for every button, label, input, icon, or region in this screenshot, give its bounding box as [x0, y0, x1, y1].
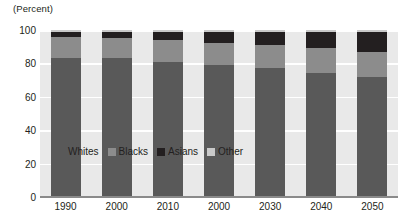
y-tick-60: 60	[2, 91, 36, 102]
bar-2010-2	[153, 30, 183, 197]
segment-asians	[102, 32, 132, 39]
segment-blacks	[153, 40, 183, 62]
bar-2030-4	[255, 30, 285, 197]
bar-2000-1	[102, 30, 132, 197]
segment-blacks	[255, 45, 285, 68]
y-tick-40: 40	[2, 125, 36, 136]
legend-label: Blacks	[119, 146, 148, 157]
bar-group	[40, 30, 398, 197]
y-tick-0: 0	[2, 192, 36, 203]
bar-2050-6	[357, 30, 387, 197]
legend-item-whites[interactable]: Whites	[57, 146, 99, 157]
legend-item-blacks[interactable]: Blacks	[108, 146, 148, 157]
x-tick-6: 2050	[342, 201, 402, 212]
segment-whites	[306, 73, 336, 197]
chart-legend: WhitesBlacksAsiansOther	[57, 146, 243, 157]
y-tick-100: 100	[2, 25, 36, 36]
segment-asians	[204, 32, 234, 44]
legend-swatch-icon	[57, 148, 65, 156]
legend-swatch-icon	[157, 148, 165, 156]
segment-whites	[102, 58, 132, 197]
bar-2040-5	[306, 30, 336, 197]
y-tick-80: 80	[2, 58, 36, 69]
y-tick-20: 20	[2, 158, 36, 169]
segment-asians	[153, 32, 183, 40]
x-axis-tick-labels: 1990200020102000203020402050	[40, 199, 398, 219]
x-axis-line	[40, 196, 398, 198]
segment-blacks	[357, 52, 387, 77]
bar-1990-0	[51, 30, 81, 197]
y-axis-tick-labels: 100806040200	[0, 0, 36, 222]
legend-label: Whites	[68, 146, 99, 157]
segment-blacks	[204, 43, 234, 65]
plot-area	[40, 30, 398, 197]
segment-whites	[51, 58, 81, 197]
stacked-bar-chart: (Percent) 100806040200 19902000201020002…	[0, 0, 410, 222]
segment-whites	[153, 62, 183, 197]
segment-whites	[357, 77, 387, 197]
legend-item-other[interactable]: Other	[207, 146, 243, 157]
segment-blacks	[102, 38, 132, 58]
segment-asians	[255, 32, 285, 45]
legend-swatch-icon	[207, 148, 215, 156]
segment-blacks	[51, 37, 81, 59]
segment-whites	[204, 65, 234, 197]
segment-asians	[357, 32, 387, 52]
bar-2000-3	[204, 30, 234, 197]
legend-label: Asians	[168, 146, 198, 157]
legend-swatch-icon	[108, 148, 116, 156]
legend-label: Other	[218, 146, 243, 157]
segment-asians	[306, 32, 336, 49]
segment-whites	[255, 68, 285, 197]
legend-item-asians[interactable]: Asians	[157, 146, 198, 157]
segment-blacks	[306, 48, 336, 73]
